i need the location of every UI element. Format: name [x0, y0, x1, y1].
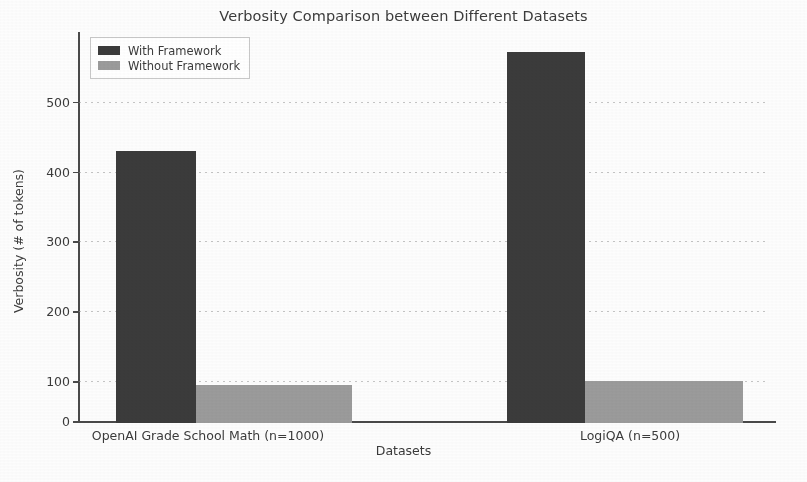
plot-area: 500 400 300 200 100 0 OpenAI Grade Schoo…	[78, 32, 768, 423]
x-tick-label-logiqa: LogiQA (n=500)	[580, 428, 680, 443]
y-tick-label-200: 200	[46, 304, 70, 319]
x-tick-label-openai-grade-school-math: OpenAI Grade School Math (n=1000)	[92, 428, 324, 443]
y-tick-label-500: 500	[46, 94, 70, 109]
y-tick-500	[73, 102, 78, 104]
y-tick-400	[73, 172, 78, 174]
chart-figure: Verbosity Comparison between Different D…	[0, 0, 807, 482]
legend-label-without-framework: Without Framework	[128, 59, 240, 73]
bar-without-framework-logiqa	[585, 381, 743, 423]
y-tick-0	[73, 421, 78, 423]
y-tick-300	[73, 241, 78, 243]
bar-without-framework-openai-grade-school-math	[196, 385, 352, 423]
legend-swatch-with-framework	[98, 46, 120, 55]
gridline-500	[79, 102, 768, 103]
y-tick-label-300: 300	[46, 234, 70, 249]
y-tick-100	[73, 381, 78, 383]
y-tick-label-100: 100	[46, 374, 70, 389]
chart-legend: With Framework Without Framework	[90, 37, 250, 79]
bar-with-framework-logiqa	[507, 52, 585, 423]
chart-title: Verbosity Comparison between Different D…	[0, 8, 807, 24]
legend-swatch-without-framework	[98, 61, 120, 70]
y-tick-label-0: 0	[62, 414, 70, 429]
y-tick-200	[73, 311, 78, 313]
x-axis-label: Datasets	[0, 443, 807, 458]
bar-with-framework-openai-grade-school-math	[116, 151, 196, 423]
legend-item-without-framework: Without Framework	[98, 58, 240, 73]
legend-label-with-framework: With Framework	[128, 44, 221, 58]
y-axis-spine	[78, 32, 80, 423]
y-tick-label-400: 400	[46, 164, 70, 179]
y-axis-label: Verbosity (# of tokens)	[11, 169, 26, 313]
legend-item-with-framework: With Framework	[98, 43, 240, 58]
